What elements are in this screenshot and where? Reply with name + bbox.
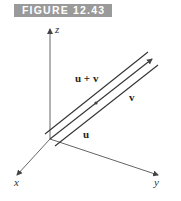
z-axis-label: z bbox=[54, 23, 60, 35]
line-u bbox=[55, 65, 158, 146]
x-axis bbox=[17, 139, 50, 175]
u-plus-v-label: u + v bbox=[75, 72, 99, 84]
x-axis-label: x bbox=[13, 176, 19, 188]
y-axis bbox=[50, 139, 158, 175]
v-label: v bbox=[129, 91, 135, 103]
vector-diagram: z x y u + v v u bbox=[0, 0, 181, 201]
y-axis-label: y bbox=[153, 176, 159, 188]
u-label: u bbox=[83, 128, 89, 140]
line-v-arrow bbox=[50, 59, 152, 139]
midpoint-dot bbox=[94, 101, 97, 104]
